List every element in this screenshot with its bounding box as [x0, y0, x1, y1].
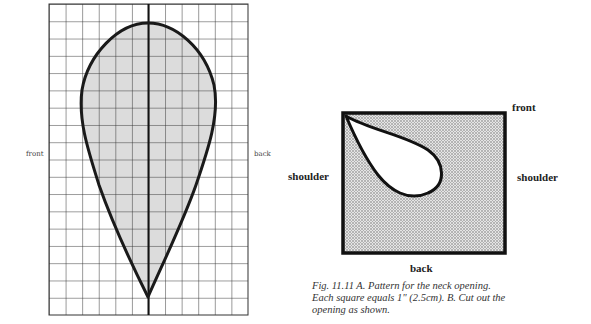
caption-line-2: Each square equals 1" (2.5cm). B. Cut ou…	[312, 292, 591, 304]
label-front-b: front	[512, 101, 536, 113]
label-shoulder-left: shoulder	[288, 170, 329, 182]
grid-pattern-svg	[0, 0, 300, 324]
label-back-b: back	[410, 262, 433, 274]
caption-line-3: opening as shown.	[312, 304, 591, 316]
caption-line-1: Fig. 11.11 A. Pattern for the neck openi…	[312, 280, 591, 292]
label-shoulder-right: shoulder	[517, 171, 558, 183]
label-front-a: front	[26, 150, 43, 158]
label-back-a: back	[254, 150, 271, 158]
figure-caption: Fig. 11.11 A. Pattern for the neck openi…	[312, 280, 591, 316]
figure-a-pattern: front back	[0, 0, 300, 324]
